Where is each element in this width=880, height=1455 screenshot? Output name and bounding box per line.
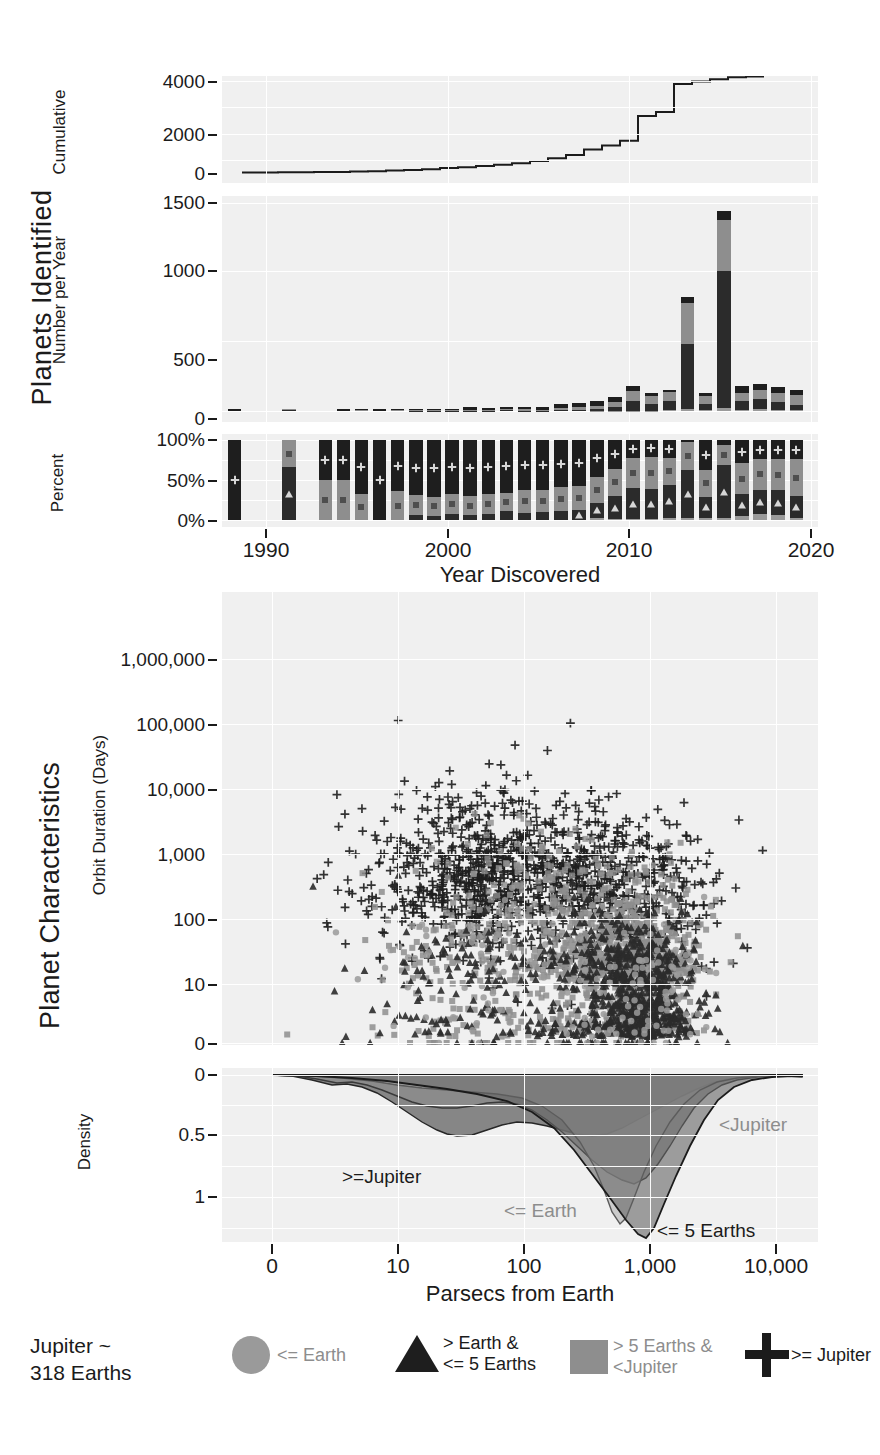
scatter-point	[587, 879, 593, 885]
scatter-point	[334, 822, 343, 831]
scatter-point	[358, 804, 367, 813]
scatter-point	[655, 959, 661, 965]
scatter-point	[380, 817, 389, 826]
scatter-point	[522, 986, 530, 993]
bar-segment	[590, 409, 604, 411]
legend-item-sub-jupiter[interactable]: > 5 Earths & <Jupiter	[570, 1336, 713, 1377]
table-row	[427, 440, 441, 520]
table-row	[228, 409, 242, 411]
bar-segment	[717, 518, 731, 520]
bar-segment	[337, 409, 351, 411]
scatter-point	[675, 937, 681, 943]
scatter-point	[563, 1002, 569, 1008]
table-row	[717, 440, 731, 520]
scatter-point	[324, 858, 333, 867]
scatter-point	[543, 993, 549, 999]
bar-segment	[409, 440, 423, 495]
scatter-point	[480, 994, 486, 1000]
scatter-point	[623, 876, 629, 882]
xtick-dash	[775, 1244, 777, 1254]
scatter-point	[535, 878, 541, 884]
scatter-point	[371, 831, 380, 840]
tri-marker-icon	[575, 511, 583, 518]
scatter-point	[600, 1011, 606, 1017]
sq-marker-icon	[322, 497, 328, 503]
table-row	[663, 390, 677, 411]
sq-marker-icon	[739, 476, 745, 482]
scatter-point	[650, 877, 659, 886]
bar-segment	[427, 497, 441, 516]
scatter-point	[569, 944, 575, 950]
scatter-point	[701, 966, 707, 972]
bar-segment	[608, 496, 622, 519]
scatter-point	[474, 924, 480, 930]
bar-segment	[681, 303, 695, 344]
scatter-point	[613, 827, 622, 836]
scatter-point	[634, 1010, 640, 1016]
bar-segment	[771, 410, 785, 411]
scatter-point	[434, 859, 440, 865]
bar-segment	[790, 395, 804, 404]
table-row	[282, 440, 296, 520]
xtick-year-1990: 1990	[216, 538, 316, 562]
scatter-point	[372, 904, 378, 910]
bar-segment	[753, 399, 767, 409]
ytick-orbit-0: 0	[55, 1033, 205, 1055]
axis-title-number-per-year: Number per Year	[50, 200, 70, 400]
table-row	[427, 409, 441, 411]
scatter-point	[434, 804, 443, 813]
scatter-point	[507, 892, 513, 898]
scatter-point	[331, 987, 339, 994]
scatter-point	[540, 919, 546, 925]
bar-segment	[427, 409, 441, 410]
scatter-point	[414, 815, 423, 824]
scatter-point	[382, 965, 388, 971]
bar-segment	[319, 480, 333, 520]
legend-item-earth[interactable]: <= Earth	[232, 1336, 346, 1374]
legend-item-jupiter[interactable]: >= Jupiter	[745, 1333, 871, 1377]
scatter-point	[467, 951, 475, 958]
scatter-point	[437, 986, 445, 993]
table-row	[790, 440, 804, 520]
scatter-point	[605, 1030, 611, 1036]
xtick-year-2000: 2000	[398, 538, 498, 562]
panel-number-per-year-plot	[222, 196, 818, 422]
scatter-point	[341, 939, 350, 948]
scatter-point	[341, 964, 349, 971]
scatter-point	[478, 950, 484, 956]
scatter-point	[342, 1033, 350, 1040]
scatter-point	[693, 835, 702, 844]
tri-marker-icon	[738, 502, 746, 509]
scatter-point	[637, 1004, 643, 1010]
scatter-point	[477, 907, 483, 913]
scatter-point	[468, 900, 474, 906]
scatter-point	[526, 999, 534, 1006]
ytick-dash	[208, 520, 217, 522]
table-row	[572, 403, 586, 411]
bar-segment	[790, 440, 804, 459]
scatter-point	[688, 919, 694, 925]
bar-segment	[482, 514, 496, 520]
ytick-density-1: 1	[105, 1186, 205, 1208]
bar-segment	[735, 386, 749, 393]
ytick-dash	[208, 659, 217, 661]
bar-segment	[572, 440, 586, 486]
bar-segment	[771, 490, 785, 515]
scatter-point	[607, 939, 613, 945]
legend-item-5-earths[interactable]: > Earth & <= 5 Earths	[395, 1333, 536, 1374]
ytick-cumulative-4000: 4000	[110, 71, 205, 93]
bar-segment	[445, 409, 459, 410]
bar-segment	[699, 404, 713, 410]
scatter-point	[454, 793, 463, 802]
table-row	[626, 440, 640, 520]
scatter-point	[639, 958, 645, 964]
ytick-dash	[208, 439, 217, 441]
xtick-dash	[397, 1244, 399, 1254]
bar-segment	[681, 442, 695, 470]
scatter-point	[621, 930, 627, 936]
scatter-point	[641, 1030, 647, 1036]
plus-marker-icon	[647, 444, 656, 453]
density-label-earth: <= Earth	[504, 1200, 577, 1222]
bar-segment	[717, 408, 731, 411]
xtick-year-2020: 2020	[761, 538, 861, 562]
